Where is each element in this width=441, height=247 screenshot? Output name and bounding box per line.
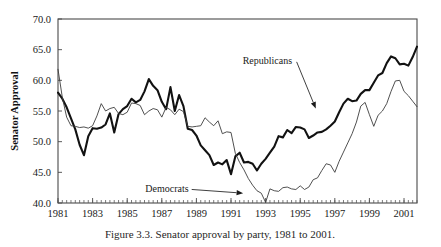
annotation-arrow-line	[192, 189, 237, 192]
x-tick-label: 1985	[117, 208, 138, 219]
x-tick-label: 1989	[186, 208, 207, 219]
annotation-label-republicans: Republicans	[243, 55, 293, 66]
x-tick-label: 1995	[290, 208, 311, 219]
annotation-arrow-head	[236, 190, 243, 195]
x-tick-label: 1987	[151, 208, 172, 219]
y-tick-label: 55.0	[33, 106, 51, 117]
y-axis-title: Senator Approval	[9, 71, 20, 150]
x-tick-label: 1983	[82, 208, 103, 219]
y-tick-label: 45.0	[33, 167, 51, 178]
y-tick-label: 60.0	[33, 75, 51, 86]
plot-area-border	[58, 19, 417, 203]
annotation-arrow-line	[297, 62, 314, 103]
data-series-group	[58, 47, 417, 203]
x-tick-label: 2001	[394, 208, 415, 219]
plot-frame	[58, 19, 417, 203]
series-line-democrats	[58, 69, 417, 202]
x-tick-label: 1981	[48, 208, 69, 219]
x-tick-label: 1999	[359, 208, 380, 219]
figure-container: 40.045.050.055.060.065.070.0 19811983198…	[0, 0, 441, 247]
y-tick-label: 70.0	[33, 14, 51, 25]
figure-caption: Figure 3.3. Senator approval by party, 1…	[105, 228, 335, 240]
y-tick-label: 50.0	[33, 136, 51, 147]
series-line-republicans	[58, 47, 417, 175]
x-tick-label: 1993	[255, 208, 276, 219]
x-tick-label: 1991	[221, 208, 242, 219]
senator-approval-chart: 40.045.050.055.060.065.070.0 19811983198…	[0, 0, 441, 247]
y-tick-label: 40.0	[33, 198, 51, 209]
annotation-arrow-head	[311, 102, 316, 109]
x-tick-label: 1997	[324, 208, 345, 219]
y-tick-label: 65.0	[33, 44, 51, 55]
annotation-label-democrats: Democrats	[145, 183, 188, 194]
